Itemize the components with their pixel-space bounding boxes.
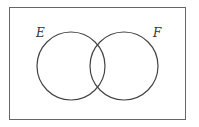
universal-set-frame bbox=[10, 8, 186, 120]
venn-diagram: E F bbox=[0, 0, 199, 127]
set-e-label: E bbox=[35, 26, 45, 40]
set-f-label: F bbox=[152, 26, 162, 40]
